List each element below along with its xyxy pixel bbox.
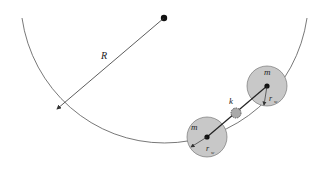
- spring-label: k: [229, 96, 234, 106]
- spring: [231, 108, 241, 118]
- radius-line: [57, 18, 164, 109]
- radius-label: R: [100, 50, 107, 61]
- diagram: R m m k r w r w: [0, 0, 327, 171]
- mass-upper-label: m: [264, 67, 271, 77]
- diagram-canvas: R m m k r w r w: [0, 0, 327, 171]
- mass-lower-label: m: [191, 122, 198, 132]
